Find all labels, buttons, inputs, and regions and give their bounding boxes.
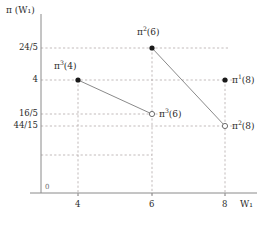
origin-label: 0 — [45, 184, 49, 191]
segment-pi3 — [78, 80, 152, 114]
x-tick-label-8: 8 — [222, 200, 227, 209]
marker-pi2-at-8 — [222, 123, 227, 128]
marker-pi1-at-8 — [222, 77, 227, 82]
vertical-gridlines — [78, 48, 225, 196]
point-label-pi2-at-8: π2(8) — [232, 122, 255, 131]
marker-pi2-at-6 — [149, 45, 154, 50]
point-label-pi3-at-6: π3(6) — [159, 110, 182, 119]
point-label-pi1-at-8: π1(8) — [232, 76, 255, 85]
point-label-pi2-at-8-arg: (8) — [242, 121, 255, 131]
point-label-pi1-at-8-arg: (8) — [242, 75, 255, 85]
profit-figure: π (W₁) W₁ 0 24/5 4 16/5 44/15 4 6 8 π3(4… — [0, 0, 266, 228]
x-tick-label-6: 6 — [149, 200, 154, 209]
point-label-pi2-at-6-arg: (6) — [147, 27, 160, 37]
marker-pi3-at-4 — [75, 77, 80, 82]
point-label-pi3-at-4: π3(4) — [54, 62, 77, 71]
plot-canvas — [0, 0, 266, 228]
y-axis-title: π (W₁) — [6, 6, 35, 15]
x-axis-title: W₁ — [240, 200, 253, 209]
point-label-pi3-at-6-arg: (6) — [169, 109, 182, 119]
y-tick-label-24over5: 24/5 — [8, 43, 38, 52]
point-label-pi3-at-4-arg: (4) — [64, 61, 77, 71]
y-tick-label-4: 4 — [8, 75, 38, 84]
point-label-pi2-at-6: π2(6) — [137, 28, 160, 37]
x-tick-label-4: 4 — [75, 200, 80, 209]
marker-pi3-at-6 — [149, 111, 154, 116]
y-tick-label-16over5: 16/5 — [4, 109, 38, 118]
y-tick-label-44over15: 44/15 — [1, 121, 38, 130]
